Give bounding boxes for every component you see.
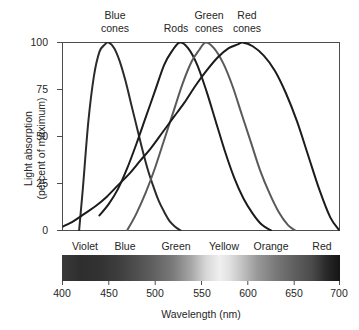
x-tick-label-600: 600 [239,287,257,299]
x-tick-label-500: 500 [146,287,164,299]
x-tick-label-650: 650 [285,287,303,299]
y-axis-ticks [57,43,63,231]
spectrum-bar [62,255,340,281]
x-axis-label: Wavelength (nm) [161,308,241,320]
plot-area [0,0,359,250]
band-label-red: Red [312,240,331,252]
curve-rods [99,42,271,230]
curve-red-cones [63,42,340,230]
x-tick-label-550: 550 [193,287,211,299]
absorption-curves [63,42,340,230]
x-tick-label-700: 700 [330,287,348,299]
axis-frame [63,43,340,231]
light-absorption-chart: Light absorption (percent of maximum) 10… [0,0,359,330]
curve-green-cones [127,42,295,230]
x-tick-label-450: 450 [100,287,118,299]
band-label-orange: Orange [253,240,288,252]
band-label-yellow: Yellow [209,240,239,252]
band-label-violet: Violet [72,240,98,252]
x-tick-label-400: 400 [53,287,71,299]
band-label-green: Green [161,240,190,252]
band-label-blue: Blue [114,240,135,252]
